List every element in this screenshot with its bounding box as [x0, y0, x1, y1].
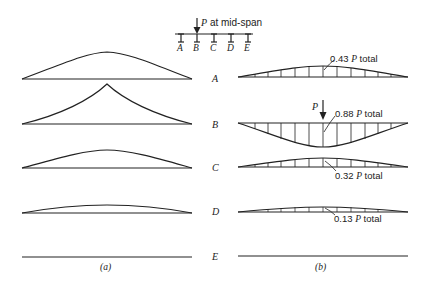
load-label: P at mid-span: [200, 17, 262, 28]
beam-label-B: B: [193, 43, 199, 53]
caption-a: (a): [100, 262, 111, 273]
load-B-label: 0.88 P total: [335, 108, 383, 119]
row-label-D: D: [211, 206, 220, 217]
beam-label-D: D: [226, 43, 234, 53]
row-label-B: B: [212, 119, 218, 130]
caption-b: (b): [315, 262, 326, 273]
panel-a: [22, 52, 192, 257]
load-C-label: 0.32 P total: [335, 170, 383, 181]
row-label-E: E: [211, 251, 218, 262]
load-A-label: 0.43 P total: [330, 53, 378, 64]
panel-b-P-label: P: [311, 101, 318, 112]
beam-label-C: C: [210, 43, 217, 53]
P-symbol: P: [200, 17, 207, 28]
beam-label-E: E: [243, 43, 250, 53]
diagram-canvas: P at mid-span A B C D E A B C D E 0.43 P…: [0, 0, 427, 286]
row-label-C: C: [212, 162, 219, 173]
row-label-A: A: [211, 73, 219, 84]
load-D-label: 0.13 P total: [334, 213, 382, 224]
beam-label-A: A: [176, 43, 183, 53]
panel-b: [238, 60, 408, 256]
